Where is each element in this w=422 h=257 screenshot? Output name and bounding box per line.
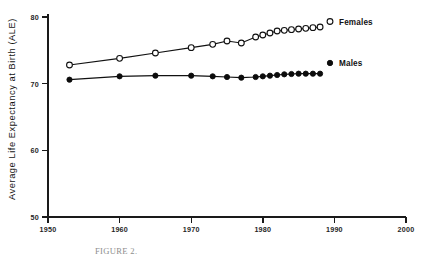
legend-label-females: Females <box>339 18 373 27</box>
legend-label-males: Males <box>339 59 363 68</box>
data-point <box>267 73 272 78</box>
figure-caption: FIGURE 2. <box>95 246 137 256</box>
data-point <box>253 74 258 79</box>
y-axis-label: Average Life Expectancy at Birth (ALE) <box>7 18 17 200</box>
data-point <box>153 73 158 78</box>
data-point <box>303 71 308 76</box>
data-point <box>210 41 216 47</box>
data-point <box>317 71 322 76</box>
data-point <box>310 71 315 76</box>
data-point <box>210 74 215 79</box>
data-point <box>310 25 316 31</box>
data-point <box>153 50 159 56</box>
data-point <box>303 25 309 31</box>
data-point <box>317 24 323 30</box>
data-point <box>67 77 72 82</box>
data-point <box>67 62 73 68</box>
data-point <box>238 40 244 46</box>
figure-container: Average Life Expectancy at Birth (ALE) 8… <box>0 0 422 257</box>
data-point <box>117 55 123 61</box>
data-point <box>260 74 265 79</box>
x-tick-label: 1950 <box>40 225 57 234</box>
data-point <box>281 27 287 33</box>
x-tick-label: 1970 <box>183 225 200 234</box>
y-tick-label: 70 <box>31 80 39 89</box>
y-tick-label: 50 <box>31 213 39 222</box>
data-point <box>282 72 287 77</box>
data-point <box>117 74 122 79</box>
data-point <box>188 45 194 51</box>
life-expectancy-line-chart: Average Life Expectancy at Birth (ALE) 8… <box>0 0 422 257</box>
x-tick-label: 1990 <box>326 225 343 234</box>
data-point <box>275 72 280 77</box>
data-point <box>267 30 273 36</box>
data-point <box>289 27 295 33</box>
data-point <box>289 71 294 76</box>
legend-marker-filled-circle-icon <box>327 60 332 65</box>
data-point <box>224 74 229 79</box>
data-point <box>189 73 194 78</box>
data-point <box>260 32 266 38</box>
x-tick-label: 1980 <box>254 225 271 234</box>
y-tick-label: 60 <box>31 146 39 155</box>
data-point <box>224 38 230 44</box>
data-point <box>274 28 280 34</box>
legend-marker-open-circle-icon <box>327 19 333 25</box>
y-tick-label: 80 <box>31 13 39 22</box>
data-point <box>239 75 244 80</box>
data-point <box>296 71 301 76</box>
x-tick-label: 2000 <box>398 225 415 234</box>
data-point <box>253 34 259 40</box>
x-tick-label: 1960 <box>111 225 128 234</box>
data-point <box>296 26 302 32</box>
chart-background <box>0 0 422 257</box>
